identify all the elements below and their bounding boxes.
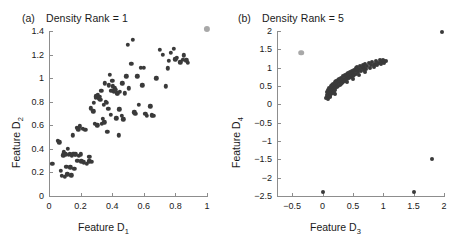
data-point [108, 72, 112, 76]
data-point [167, 59, 171, 63]
data-point [328, 94, 332, 98]
panel-b-xlabel-sub: 3 [357, 227, 361, 236]
data-point [102, 120, 106, 124]
data-point [78, 152, 82, 156]
highlighted-data-point [298, 50, 304, 56]
data-point [118, 89, 122, 93]
y-tick [278, 104, 281, 105]
x-tick-label: 1 [204, 201, 209, 211]
y-tick [50, 55, 53, 56]
data-point [137, 102, 141, 106]
data-point [161, 52, 165, 56]
x-tick [112, 193, 113, 196]
data-point [140, 83, 144, 87]
data-point [91, 109, 95, 113]
y-tick-label: 0.5 [232, 81, 272, 91]
panel-a-ylabel-text: Feature D [10, 121, 22, 168]
data-point [154, 76, 158, 80]
data-point [186, 61, 190, 65]
data-point [95, 123, 99, 127]
x-tick-label: 0.5 [347, 201, 360, 211]
data-point [92, 101, 96, 105]
data-point [440, 30, 444, 34]
data-point [114, 116, 118, 120]
panel-a-xlabel-sub: 1 [125, 227, 129, 236]
x-tick-label: −0.5 [283, 201, 301, 211]
data-point [57, 140, 61, 144]
data-point [172, 46, 176, 50]
data-point [124, 74, 128, 78]
data-point [126, 42, 130, 46]
x-tick-label: 0.2 [74, 201, 87, 211]
panel-a-ylabel-sub: 2 [16, 117, 25, 121]
data-point [333, 92, 337, 96]
data-point [105, 130, 109, 134]
y-tick [50, 78, 53, 79]
data-point [357, 73, 361, 77]
x-tick [383, 193, 384, 196]
y-tick [278, 31, 281, 32]
y-tick [50, 125, 53, 126]
data-point [151, 114, 155, 118]
figure-container: (a) Density Rank = 1 00.20.40.60.8100.20… [0, 0, 452, 244]
data-point [321, 190, 325, 194]
x-tick [81, 193, 82, 196]
y-tick-label: 0.8 [4, 97, 44, 107]
data-point [363, 70, 367, 74]
x-tick [353, 193, 354, 196]
y-tick [278, 86, 281, 87]
panel-b-xlabel: Feature D3 [310, 221, 361, 236]
highlighted-data-point [204, 26, 210, 32]
panel-b-xlabel-text: Feature D [310, 221, 357, 233]
panel-b-title: Density Rank = 5 [262, 12, 344, 24]
y-tick [278, 68, 281, 69]
panel-b: (b) Density Rank = 5 −0.500.511.52−2.5−2… [226, 0, 452, 244]
data-point [182, 53, 186, 57]
data-point [145, 114, 149, 118]
y-tick [278, 178, 281, 179]
y-tick-label: −2.5 [232, 191, 272, 201]
panel-a: (a) Density Rank = 1 00.20.40.60.8100.20… [0, 0, 226, 244]
y-tick-label: 1.5 [232, 44, 272, 54]
data-point [133, 111, 137, 115]
y-tick [278, 196, 281, 197]
y-tick [278, 159, 281, 160]
data-point [372, 63, 376, 67]
data-point [123, 91, 127, 95]
panel-b-ylabel: Feature D4 [230, 117, 245, 168]
data-point [108, 112, 112, 116]
y-tick-label: 1.2 [4, 50, 44, 60]
data-point [72, 167, 76, 171]
x-tick-label: 0 [46, 201, 51, 211]
panel-b-letter: (b) [238, 12, 251, 24]
panel-a-ylabel: Feature D2 [10, 117, 25, 168]
data-point [131, 38, 135, 42]
panel-b-plot-area: −0.500.511.52−2.5−2−1.5−1−0.500.511.52 [277, 31, 444, 196]
y-tick-label: 0 [4, 191, 44, 201]
data-point [89, 160, 93, 164]
x-tick-label: 2 [441, 201, 446, 211]
panel-b-ylabel-sub: 4 [236, 117, 245, 121]
data-point [430, 157, 434, 161]
y-tick [278, 49, 281, 50]
x-tick-label: 0 [320, 201, 325, 211]
y-tick [50, 196, 53, 197]
data-point [164, 84, 168, 88]
x-tick [444, 193, 445, 196]
data-point [339, 82, 343, 86]
data-point [99, 88, 103, 92]
y-axis-line [49, 31, 50, 196]
y-tick [50, 149, 53, 150]
data-point [110, 78, 114, 82]
x-tick [144, 193, 145, 196]
data-point [142, 65, 146, 69]
panel-a-title: Density Rank = 1 [46, 12, 128, 24]
y-tick-label: 1.4 [4, 26, 44, 36]
data-point [165, 66, 169, 70]
data-point [148, 104, 152, 108]
y-tick [278, 141, 281, 142]
x-tick [207, 193, 208, 196]
x-axis-line [277, 196, 445, 197]
panel-a-xlabel: Feature D1 [78, 221, 129, 236]
data-point [104, 101, 108, 105]
